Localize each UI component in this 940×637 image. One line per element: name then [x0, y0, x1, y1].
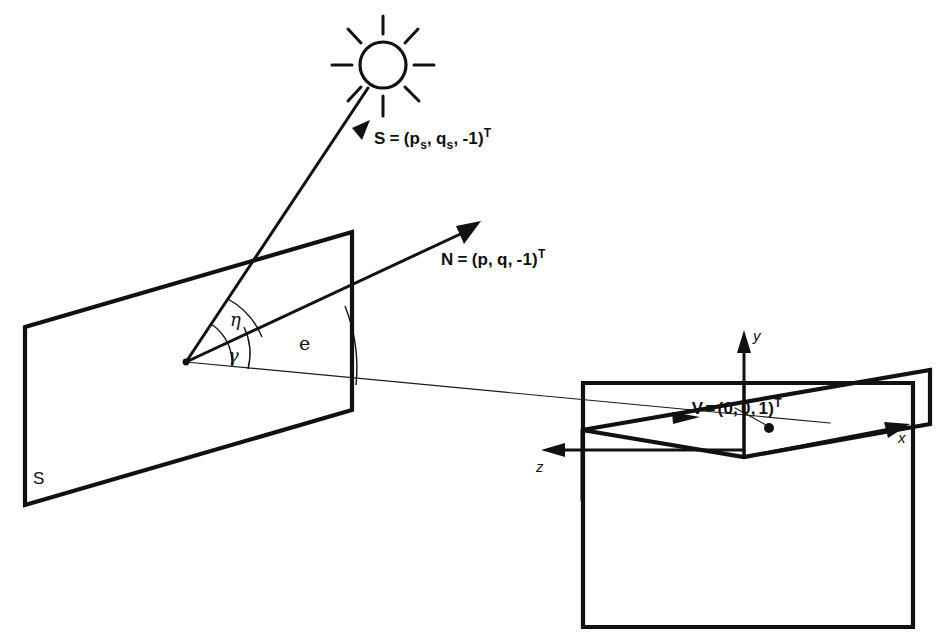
view-vector-comp1: 0: [723, 399, 733, 418]
view-vector-equals: =: [705, 399, 715, 418]
axis-z-label: z: [535, 458, 544, 475]
sun-icon: [332, 16, 434, 116]
normal-vector-symbol: N: [441, 250, 453, 269]
source-vector-comp2: q: [436, 129, 447, 148]
source-vector-comp1: p: [410, 129, 421, 148]
source-vector-equals: =: [390, 129, 400, 148]
geometry-figure: S=(ps,qs,-1)T N=(p,q,-1)T -V=(0,0,1)T η …: [0, 0, 940, 637]
axis-y-arrowhead: [737, 330, 751, 353]
surface-patch-parallelogram: [25, 232, 352, 505]
svg-text:S=(ps,qs,-1)T: S=(ps,qs,-1)T: [374, 126, 492, 152]
source-vector-comp3: -1: [462, 129, 478, 148]
normal-vector-sep2: ,: [508, 250, 513, 269]
illumination-ray: [186, 88, 370, 362]
normal-vector-comp3: -1: [517, 250, 533, 269]
normal-vector-equals: =: [457, 250, 467, 269]
surface-normal-arrow: [186, 221, 481, 362]
angle-e-label: e: [299, 332, 310, 354]
normal-vector-comp1: p: [478, 250, 489, 269]
source-vector-sep1: ,: [427, 129, 432, 148]
surface-label: S: [33, 469, 44, 488]
normal-vector-sep1: ,: [488, 250, 493, 269]
normal-vector-superscript: T: [538, 247, 546, 261]
axis-z: [541, 443, 744, 457]
view-vector-label: -V=(0,0,1)T: [686, 396, 782, 418]
source-vector-label: S=(ps,qs,-1)T: [374, 126, 492, 152]
axis-x-label: x: [897, 429, 906, 446]
view-vector-comp2: 0: [741, 399, 751, 418]
view-vector-comp3: 1: [759, 399, 769, 418]
source-vector-symbol: S: [374, 129, 386, 148]
axis-z-arrowhead: [541, 443, 565, 457]
source-ray-arrowhead: [352, 120, 370, 140]
axis-y-label: y: [752, 327, 762, 344]
source-vector-sep2: ,: [453, 129, 458, 148]
angle-gamma-label: γ: [228, 345, 239, 366]
source-vector-superscript: T: [484, 126, 492, 140]
angle-eta-label: η: [230, 309, 241, 330]
svg-text:-V=(0,0,1)T: -V=(0,0,1)T: [686, 396, 782, 418]
view-vector-superscript: T: [774, 396, 782, 410]
view-vector-symbol: -V: [686, 399, 704, 418]
view-vector-sep1: ,: [733, 399, 738, 418]
diagram-canvas: S=(ps,qs,-1)T N=(p,q,-1)T -V=(0,0,1)T η …: [0, 0, 940, 637]
normal-vector-label: N=(p,q,-1)T: [441, 247, 546, 269]
normal-arrowhead: [456, 221, 481, 244]
surface-point-vertex: [183, 359, 190, 366]
normal-vector-comp2: q: [497, 250, 508, 269]
view-vector-sep2: ,: [751, 399, 756, 418]
svg-text:N=(p,q,-1)T: N=(p,q,-1)T: [441, 247, 546, 269]
